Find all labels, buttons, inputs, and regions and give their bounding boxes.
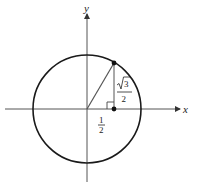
horizontal-leg-label: 1 2 [98,115,105,135]
numerator: 1 [99,115,104,125]
y-axis-label: y [83,2,89,14]
foot-point [112,107,117,112]
denominator: 2 [122,94,127,104]
x-axis-label: x [182,103,188,115]
unit-circle-diagram: x y 3 2 1 2 [0,0,197,182]
point-on-circle [112,61,117,66]
radicand: 3 [124,79,129,89]
vertical-leg-label: 3 2 [117,77,132,104]
denominator: 2 [99,125,104,135]
